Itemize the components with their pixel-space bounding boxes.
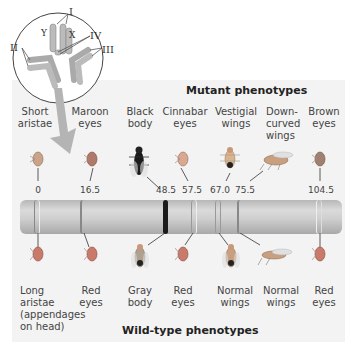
connector-lines-top xyxy=(0,165,358,201)
label-chromosome-IV: IV xyxy=(90,30,101,41)
mutant-label-1: Marooneyes xyxy=(70,106,110,130)
mutant-label-4: Vestigialwings xyxy=(211,106,261,130)
band-black-body xyxy=(163,200,168,234)
wildtype-title: Wild-type phenotypes xyxy=(122,324,259,337)
wildtype-label-3: Redeyes xyxy=(165,285,201,309)
band-maroon xyxy=(80,200,86,234)
position-label-5: 75.5 xyxy=(230,185,260,195)
label-chromosome-I: I xyxy=(69,6,73,17)
wildtype-label-6: Redeyes xyxy=(306,285,342,309)
fly-head-long-aristae-icon xyxy=(30,245,46,263)
label-Y: Y xyxy=(41,28,47,38)
position-label-1: 16.5 xyxy=(75,185,105,195)
mutant-label-5: Down-curvedwings xyxy=(266,106,306,142)
position-label-0: 0 xyxy=(23,185,53,195)
label-chromosome-II: II xyxy=(10,42,18,53)
mutant-label-3: Cinnabareyes xyxy=(160,106,210,130)
label-chromosome-III: III xyxy=(102,44,114,55)
chromosome-bar xyxy=(20,200,342,234)
position-label-6: 104.5 xyxy=(306,185,336,195)
fly-head-red-eyes-icon xyxy=(175,245,191,263)
band-aristae xyxy=(34,200,40,234)
band-vestigial xyxy=(215,200,221,234)
fly-normal-wings-side-icon xyxy=(254,245,294,267)
mutant-label-0: Shortaristae xyxy=(15,106,55,130)
fly-head-red-eyes-icon xyxy=(84,245,100,263)
fly-normal-wings-icon xyxy=(219,242,243,270)
mutant-label-2: Blackbody xyxy=(122,106,158,130)
wildtype-label-2: Graybody xyxy=(122,285,158,309)
fly-gray-body-icon xyxy=(128,242,152,270)
wildtype-label-4: Normalwings xyxy=(212,285,258,309)
mutant-label-6: Browneyes xyxy=(304,106,344,130)
band-brown xyxy=(316,200,322,234)
band-cinnabar xyxy=(191,200,197,234)
fly-head-red-eyes-icon xyxy=(312,245,328,263)
band-down-curved xyxy=(237,200,243,234)
wildtype-label-1: Redeyes xyxy=(73,285,109,309)
wildtype-label-5: Normalwings xyxy=(258,285,304,309)
position-label-3: 57.5 xyxy=(177,185,207,195)
mutant-title: Mutant phenotypes xyxy=(186,84,307,97)
label-X: X xyxy=(69,30,75,40)
